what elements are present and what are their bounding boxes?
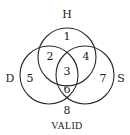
region-label-1: 1 <box>64 30 71 43</box>
region-label-2: 2 <box>47 50 54 63</box>
region-label-5: 5 <box>27 72 34 85</box>
region-label-6: 6 <box>64 83 71 96</box>
set-label-d: D <box>6 72 15 85</box>
region-label-4: 4 <box>83 50 90 63</box>
set-label-s: S <box>117 72 125 85</box>
region-label-8: 8 <box>64 104 71 117</box>
region-label-3: 3 <box>64 65 71 78</box>
venn-diagram: H D S 1 2 3 4 5 6 7 8 VALID <box>0 0 130 135</box>
diagram-caption: VALID <box>51 120 82 131</box>
region-label-7: 7 <box>100 72 107 85</box>
set-label-h: H <box>62 8 72 21</box>
